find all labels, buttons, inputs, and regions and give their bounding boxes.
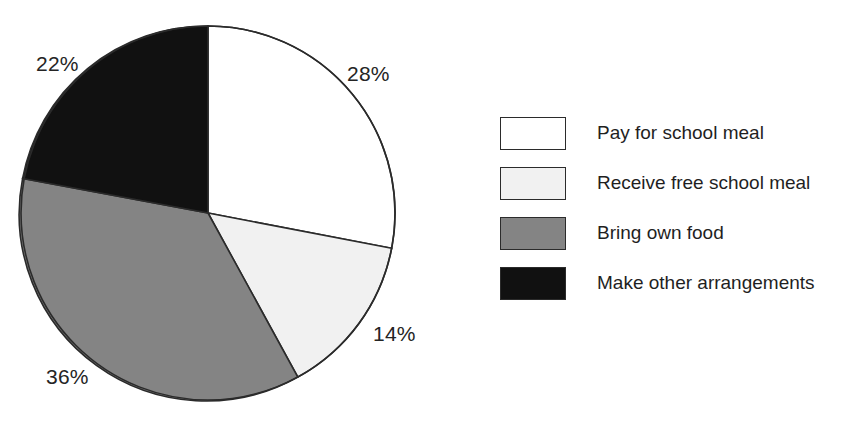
legend-swatch-pay-for-school-meal [500, 117, 566, 150]
legend-label-pay-for-school-meal: Pay for school meal [597, 123, 764, 144]
legend-item-bring-own-food: Bring own food [500, 208, 845, 258]
legend-swatch-make-other-arrangements [500, 267, 566, 300]
legend-item-pay-for-school-meal: Pay for school meal [500, 108, 845, 158]
legend-item-make-other-arrangements: Make other arrangements [500, 258, 845, 308]
legend-label-make-other-arrangements: Make other arrangements [597, 273, 815, 294]
legend-label-receive-free-school-meal: Receive free school meal [597, 173, 810, 194]
pie-chart-figure: 22% 28% 14% 36% Pay for school meal Rece… [0, 0, 849, 424]
pie-value-label-pay-for-school-meal: 28% [347, 62, 390, 86]
pie-slice-pay-for-school-meal [208, 26, 395, 248]
pie-value-label-make-other-arrangements: 22% [36, 52, 79, 76]
legend-label-bring-own-food: Bring own food [597, 223, 724, 244]
pie-chart-plot-area: 22% 28% 14% 36% [0, 0, 440, 424]
chart-legend: Pay for school meal Receive free school … [500, 108, 845, 308]
legend-item-receive-free-school-meal: Receive free school meal [500, 158, 845, 208]
legend-swatch-bring-own-food [500, 217, 566, 250]
pie-value-label-bring-own-food: 36% [46, 365, 89, 389]
pie-value-label-receive-free-school-meal: 14% [373, 322, 416, 346]
legend-swatch-receive-free-school-meal [500, 167, 566, 200]
